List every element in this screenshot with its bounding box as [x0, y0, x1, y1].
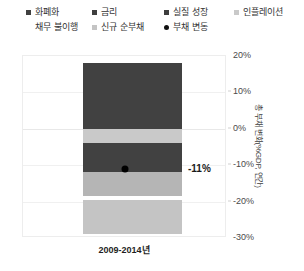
legend-square-icon	[234, 10, 239, 15]
legend-item-label: 화폐화	[35, 8, 59, 17]
legend-item-6[interactable]: 부채 변동	[164, 23, 208, 32]
chart-legend: 화폐화금리실질 성장인플레이션채무 불이행신규 순부채부채 변동	[0, 8, 304, 46]
legend-item-2[interactable]: 실질 성장	[164, 8, 208, 17]
bar-segment-4[interactable]	[83, 200, 182, 235]
legend-square-icon	[26, 10, 31, 15]
legend-item-label: 금리	[101, 8, 117, 17]
bar-segment-1[interactable]	[83, 129, 182, 144]
legend-item-4[interactable]: 채무 불이행	[26, 23, 78, 32]
legend-square-icon	[92, 10, 97, 15]
legend-item-label: 부채 변동	[173, 23, 208, 32]
bar-segment-0[interactable]	[83, 63, 182, 129]
y-tick-mark	[228, 91, 231, 92]
plot-area: -11%	[22, 55, 226, 237]
legend-item-label: 인플레이션	[243, 8, 283, 17]
legend-item-label: 신규 순부채	[101, 23, 144, 32]
legend-item-0[interactable]: 화폐화	[26, 8, 59, 17]
y-tick-label: -30%	[233, 232, 254, 242]
bar-segment-2[interactable]	[83, 143, 182, 172]
stacked-bar[interactable]	[83, 56, 182, 236]
legend-none-icon	[26, 25, 31, 30]
y-tick-mark	[228, 164, 231, 165]
y-tick-label: 10%	[233, 86, 251, 96]
legend-dot-icon	[164, 25, 169, 30]
legend-item-5[interactable]: 신규 순부채	[92, 23, 144, 32]
legend-item-label: 실질 성장	[173, 8, 208, 17]
legend-item-label: 채무 불이행	[35, 23, 78, 32]
x-axis-label: 2009-2014년	[22, 243, 226, 256]
legend-square-icon	[92, 25, 97, 30]
y-tick-mark	[228, 127, 231, 128]
y-tick-label: -20%	[233, 196, 254, 206]
y-tick-label: 20%	[233, 50, 251, 60]
value-label: -11%	[188, 163, 211, 174]
y-tick-label: 0%	[233, 123, 246, 133]
legend-item-1[interactable]: 금리	[92, 8, 117, 17]
bar-segment-3[interactable]	[83, 172, 182, 196]
y-tick-label: -10%	[233, 159, 254, 169]
legend-square-icon	[164, 10, 169, 15]
legend-item-3[interactable]: 인플레이션	[234, 8, 283, 17]
y-tick-mark	[228, 200, 231, 201]
debt-change-dot-marker	[121, 165, 128, 172]
y-axis-title: 총 부채 변화(%GDP, 연간)	[252, 55, 268, 237]
